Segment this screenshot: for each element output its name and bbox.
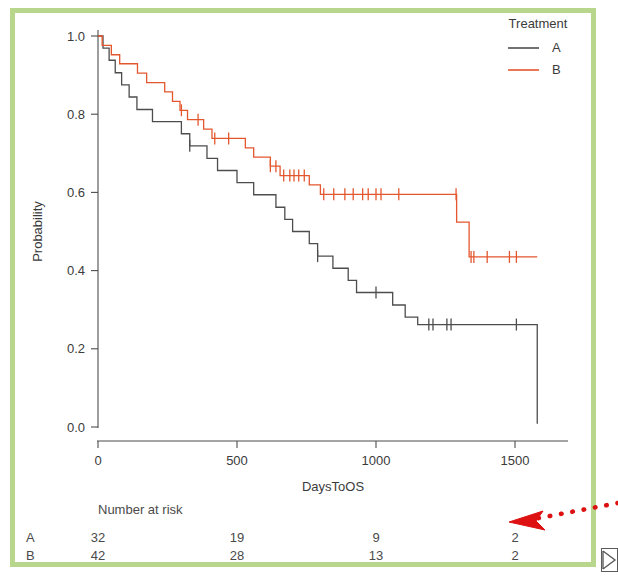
number-at-risk-table: Number at riskA321992B4228132: [26, 502, 519, 563]
legend-title: Treatment: [509, 16, 568, 31]
chart-legend: TreatmentAB: [508, 16, 568, 77]
risk-cell: 2: [511, 548, 518, 563]
risk-cell: 28: [230, 548, 244, 563]
kaplan-meier-chart: 0.00.20.40.60.81.0050010001500DaysToOSPr…: [0, 0, 618, 584]
legend-label-A: A: [552, 40, 561, 55]
y-tick-label: 0.2: [67, 341, 85, 356]
y-tick-label: 0.6: [67, 185, 85, 200]
arrow-head: [509, 511, 545, 530]
x-tick-label: 1500: [501, 453, 530, 468]
x-axis-title: DaysToOS: [302, 479, 364, 494]
x-tick-label: 0: [94, 453, 101, 468]
y-tick-label: 0.0: [67, 420, 85, 435]
risk-row-label-B: B: [26, 548, 35, 563]
km-line-A: [98, 36, 537, 424]
arrow-dotted-tail: [534, 503, 618, 519]
y-axis-title: Probability: [30, 201, 45, 262]
km-line-B: [98, 36, 537, 257]
corner-glyph-svg: [602, 549, 617, 571]
risk-table-title: Number at risk: [98, 502, 183, 517]
risk-cell: 42: [91, 548, 105, 563]
km-curve-B: [98, 36, 537, 263]
y-tick-label: 0.4: [67, 263, 85, 278]
y-tick-label: 1.0: [67, 29, 85, 44]
risk-row-label-A: A: [26, 530, 35, 545]
y-tick-label: 0.8: [67, 107, 85, 122]
risk-cell: 19: [230, 530, 244, 545]
risk-cell: 32: [91, 530, 105, 545]
x-tick-label: 1000: [362, 453, 391, 468]
x-tick-label: 500: [226, 453, 248, 468]
risk-cell: 2: [511, 530, 518, 545]
risk-cell: 9: [372, 530, 379, 545]
km-curve-A: [98, 36, 537, 424]
risk-cell: 13: [369, 548, 383, 563]
km-plot-figure: 0.00.20.40.60.81.0050010001500DaysToOSPr…: [0, 0, 618, 584]
corner-page-icon: [601, 548, 618, 572]
red-dotted-arrow: [509, 503, 618, 530]
legend-label-B: B: [552, 62, 561, 77]
